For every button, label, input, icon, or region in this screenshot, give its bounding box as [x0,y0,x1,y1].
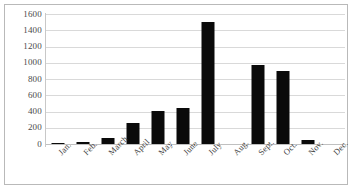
x-axis-tick-mark [345,144,346,147]
x-axis-tick-mark [170,144,171,147]
x-axis-tick-mark [95,144,96,147]
x-axis-tick-label: April [131,137,151,157]
x-axis-tick-mark [145,144,146,147]
x-axis-tick-label: Jan. [56,140,73,157]
x-axis-tick-mark [70,144,71,147]
x-axis-tick-mark [320,144,321,147]
x-axis-tick-label: Oct. [281,139,299,157]
x-axis-tick-label: Nov. [306,138,325,157]
x-axis-tick-label: Sept. [256,137,276,157]
x-axis-tick-label: May [156,139,175,158]
x-axis-labels: Jan.Feb.MarchAprilMayJuneJulyAug.Sept.Oc… [0,0,354,190]
x-axis-tick-mark [120,144,121,147]
x-axis-tick-label: Feb. [81,139,99,157]
x-axis-tick-mark [270,144,271,147]
x-axis-tick-mark [245,144,246,147]
x-axis-tick-label: June [181,138,200,157]
x-axis-tick-mark [195,144,196,147]
x-axis-tick-mark [295,144,296,147]
x-axis-tick-label: Aug. [231,138,251,158]
x-axis-tick-mark [45,144,46,147]
x-axis-tick-mark [220,144,221,147]
x-axis-tick-label: July [206,139,224,157]
x-axis-tick-label: Dec. [331,138,350,157]
x-axis-tick-label: March [106,134,129,157]
